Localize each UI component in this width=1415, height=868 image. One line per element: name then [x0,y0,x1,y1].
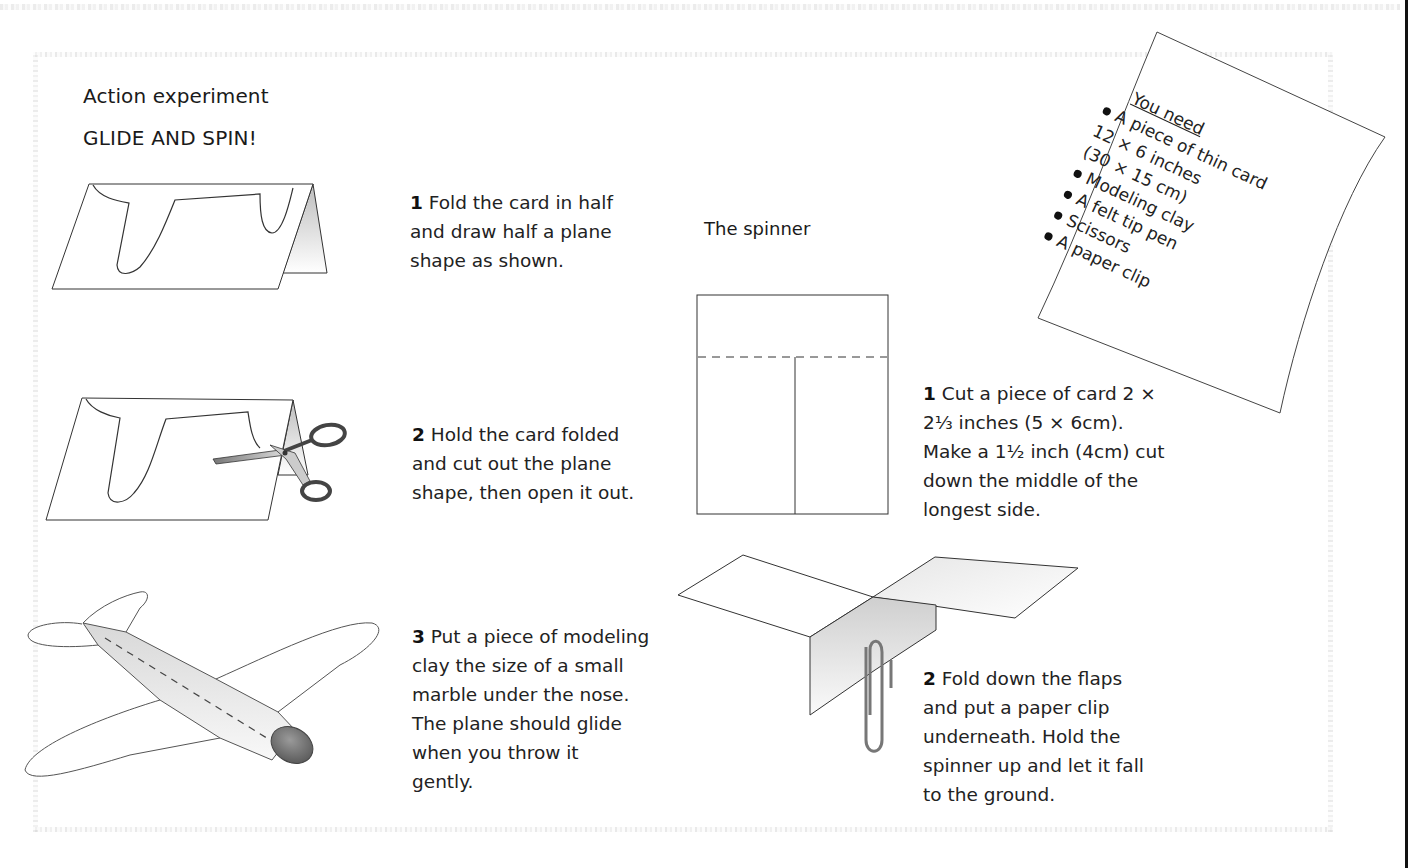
frame-top-border [35,52,1333,57]
folded-card-illustration [40,170,340,300]
frame-right-border [1328,52,1333,832]
section-kicker: Action experiment [83,84,269,108]
spinner-step-1: 1 Cut a piece of card 2 × 2⅓ inches (5 ×… [923,379,1165,524]
spinner-step-2: 2 Fold down the flaps and put a paper cl… [923,664,1144,809]
cut-card-illustration [40,385,360,525]
glider-step-1: 1 Fold the card in half and draw half a … [410,188,613,275]
glider-step-3: 3 Put a piece of modeling clay the size … [412,622,649,796]
you-need-list: You need A piece of thin card 12 × 6 inc… [1040,78,1281,321]
glider-illustration [20,580,390,780]
spinner-template-illustration [695,293,891,517]
page-edge-rule [1405,0,1408,868]
glider-step-2: 2 Hold the card folded and cut out the p… [412,420,634,507]
frame-bottom-border [35,827,1333,832]
page-title: GLIDE AND SPIN! [83,126,257,150]
bullet-icon [1063,189,1074,200]
bullet-icon [1072,169,1083,180]
spinner-section-title: The spinner [704,218,810,239]
bullet-icon [1053,210,1064,221]
top-texture-strip [0,4,1400,10]
bullet-icon [1102,106,1113,117]
bullet-icon [1043,231,1054,242]
